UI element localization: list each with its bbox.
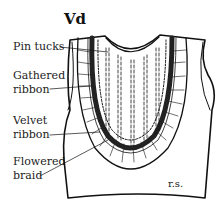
garment-illustration — [0, 0, 222, 214]
velvet-ribbon-band — [92, 38, 172, 148]
bodice-outline — [64, 35, 215, 198]
pin-tucks — [106, 48, 159, 146]
